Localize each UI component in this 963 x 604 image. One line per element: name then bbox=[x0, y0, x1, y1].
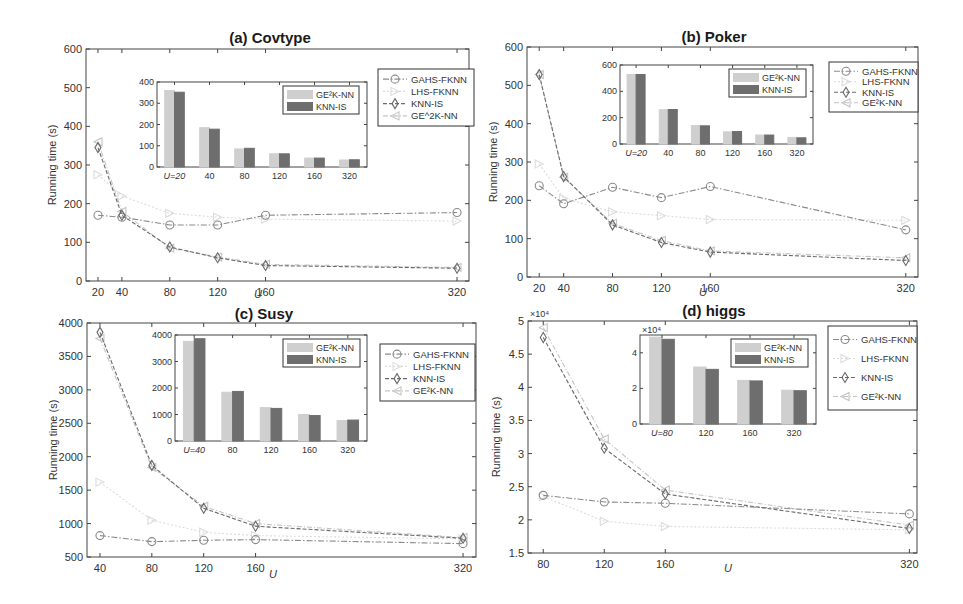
bar-ge2k-nn bbox=[305, 158, 315, 167]
inset-y-tick-label: 0 bbox=[632, 419, 637, 429]
legend-label: KNN-IS bbox=[413, 373, 445, 384]
inset-y-tick-label: 600 bbox=[602, 60, 617, 70]
bar-ge2k-nn bbox=[756, 135, 765, 144]
legend-label: LHS-FKNN bbox=[411, 86, 459, 97]
y-tick-label: 5 bbox=[518, 315, 524, 327]
bar-ge2k-nn bbox=[270, 154, 280, 167]
legend: GAHS-FKNNLHS-FKNNKNN-ISGE²K-NN bbox=[829, 62, 918, 112]
legend-item-gahs-fknn: GAHS-FKNN bbox=[833, 334, 917, 345]
x-tick-label: 120 bbox=[208, 286, 226, 298]
bar-knn-is bbox=[348, 420, 359, 441]
y-multiplier: ×10⁴ bbox=[530, 309, 549, 319]
y-tick-label: 2000 bbox=[59, 451, 83, 463]
legend-label: LHS-FKNN bbox=[413, 361, 461, 372]
bar-knn-is bbox=[271, 408, 282, 441]
legend-item-gahs-fknn: GAHS-FKNN bbox=[834, 66, 918, 77]
bar-ge2k-nn bbox=[691, 126, 700, 144]
inset-x-tick-label: 160 bbox=[307, 171, 322, 181]
inset-x-tick-label: 160 bbox=[742, 428, 757, 438]
y-tick-label: 2.5 bbox=[509, 481, 524, 493]
x-tick-label: 20 bbox=[92, 286, 104, 298]
y-tick-label: 4 bbox=[518, 381, 524, 393]
y-axis-label: Running time (s) bbox=[47, 400, 59, 481]
bar-knn-is bbox=[668, 110, 677, 144]
y-axis-label: Running time (s) bbox=[490, 397, 502, 478]
bar-ge2k-nn bbox=[260, 408, 271, 441]
y-tick-label: 100 bbox=[64, 236, 82, 248]
inset-x-tick-label: U=20 bbox=[164, 171, 186, 181]
inset-legend: GE²K-NNKNN-IS bbox=[283, 339, 360, 367]
bar-knn-is bbox=[194, 339, 205, 441]
panel-4: (d) higgs1.522.533.544.55×10⁴80120160320… bbox=[490, 302, 919, 574]
y-tick-label: 200 bbox=[64, 198, 82, 210]
inset-x-tick-label: 120 bbox=[725, 148, 740, 158]
bar-knn-is bbox=[315, 158, 325, 167]
inset-x-tick-label: 40 bbox=[663, 148, 673, 158]
legend: GAHS-FKNNLHS-FKNNKNN-ISGE^2K-NN bbox=[378, 69, 474, 126]
x-axis-label: U bbox=[269, 568, 277, 580]
y-tick-label: 4000 bbox=[59, 317, 83, 329]
bar-ge2k-nn bbox=[782, 390, 794, 424]
y-axis-label: Running time (s) bbox=[46, 125, 58, 206]
legend-label: LHS-FKNN bbox=[861, 353, 909, 364]
x-axis-label: U bbox=[254, 288, 262, 300]
inset-legend-swatch bbox=[735, 355, 761, 364]
y-tick-label: 300 bbox=[505, 156, 523, 168]
y-tick-label: 500 bbox=[64, 82, 82, 94]
inset-y-multiplier: ×10⁴ bbox=[642, 325, 661, 335]
bar-knn-is bbox=[794, 391, 806, 424]
x-axis-label: U bbox=[724, 562, 732, 574]
legend-label: KNN-IS bbox=[862, 87, 894, 98]
x-tick-label: 120 bbox=[652, 282, 670, 294]
inset-x-tick-label: 320 bbox=[786, 428, 801, 438]
bar-ge2k-nn bbox=[627, 74, 636, 144]
legend-label: GE^2K-NN bbox=[411, 110, 458, 121]
inset-legend: GE²K-NNKNN-IS bbox=[283, 86, 359, 114]
y-tick-label: 4.5 bbox=[509, 348, 524, 360]
x-tick-label: 20 bbox=[533, 282, 545, 294]
x-tick-label: 80 bbox=[164, 286, 176, 298]
legend-label: KNN-IS bbox=[861, 372, 893, 383]
legend-label: GE²K-NN bbox=[413, 385, 453, 396]
bar-ge2k-nn bbox=[200, 128, 210, 167]
legend-label: GE²K-NN bbox=[862, 97, 902, 108]
inset-x-tick-label: U=80 bbox=[651, 428, 673, 438]
bar-ge2k-nn bbox=[340, 160, 350, 167]
bar-ge2k-nn bbox=[650, 337, 662, 424]
bar-knn-is bbox=[733, 131, 742, 144]
y-tick-label: 1500 bbox=[59, 484, 83, 496]
x-tick-label: 40 bbox=[94, 562, 106, 574]
y-tick-label: 600 bbox=[505, 41, 523, 53]
figure-canvas: (a) Covtype01002003004005006002040801201… bbox=[0, 0, 963, 604]
bar-ge2k-nn bbox=[299, 415, 310, 442]
inset-y-tick-label: 0 bbox=[167, 436, 172, 446]
bar-ge2k-nn bbox=[183, 341, 194, 441]
x-tick-label: 320 bbox=[897, 282, 915, 294]
inset-legend-swatch bbox=[735, 343, 761, 352]
x-tick-label: 320 bbox=[448, 286, 466, 298]
y-tick-label: 3.5 bbox=[509, 414, 524, 426]
x-tick-label: 40 bbox=[558, 282, 570, 294]
bar-ge2k-nn bbox=[738, 380, 750, 424]
y-tick-label: 500 bbox=[505, 79, 523, 91]
inset-y-tick-label: 300 bbox=[139, 98, 154, 108]
panel-title: (a) Covtype bbox=[229, 29, 311, 46]
inset-bar-chart: U=2040801201603200100200300400GE²K-NNKNN… bbox=[139, 77, 367, 181]
inset-y-tick-label: 2 bbox=[632, 383, 637, 393]
y-tick-label: 1.5 bbox=[509, 547, 524, 559]
y-tick-label: 0 bbox=[76, 275, 82, 287]
x-tick-label: 320 bbox=[454, 562, 472, 574]
inset-x-tick-label: 320 bbox=[789, 148, 804, 158]
inset-y-tick-label: 4000 bbox=[152, 330, 172, 340]
bar-knn-is bbox=[210, 129, 220, 167]
x-tick-label: 160 bbox=[246, 562, 264, 574]
y-axis-label: Running time (s) bbox=[487, 122, 499, 203]
bar-ge2k-nn bbox=[659, 110, 668, 144]
legend-label: KNN-IS bbox=[762, 85, 793, 95]
legend-label: GE²K-NN bbox=[316, 90, 354, 100]
x-tick-label: 160 bbox=[656, 558, 674, 570]
x-tick-label: 80 bbox=[606, 282, 618, 294]
y-tick-label: 1000 bbox=[59, 518, 83, 530]
inset-x-tick-label: 80 bbox=[695, 148, 705, 158]
bar-knn-is bbox=[797, 138, 806, 144]
